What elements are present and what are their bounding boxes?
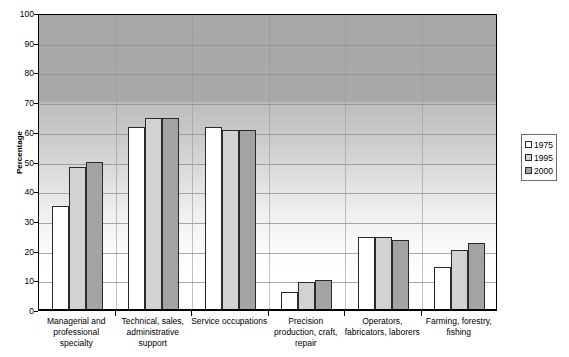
bar bbox=[222, 130, 239, 310]
x-axis-label-line: repair bbox=[262, 338, 351, 349]
category-separator bbox=[192, 15, 193, 310]
y-axis-tick-label: 50 bbox=[10, 159, 34, 167]
bar bbox=[451, 250, 468, 310]
y-axis-title: Percentage bbox=[15, 108, 24, 198]
y-axis-tick-label: 80 bbox=[10, 69, 34, 77]
dark-gray-swatch-icon bbox=[525, 167, 532, 174]
bar bbox=[52, 206, 69, 310]
x-axis-label-line: fishing bbox=[415, 327, 504, 338]
gridline bbox=[39, 104, 496, 105]
bar bbox=[468, 243, 485, 310]
x-axis-label-line: Technical, sales, bbox=[109, 316, 198, 327]
bar bbox=[145, 118, 162, 310]
bar bbox=[239, 130, 256, 310]
x-axis-label-line: Precision bbox=[262, 316, 351, 327]
bar bbox=[392, 240, 409, 310]
x-axis-label-line: support bbox=[109, 338, 198, 349]
y-axis-tick-label: 10 bbox=[10, 277, 34, 285]
x-axis-label-line: Farming, forestry, bbox=[415, 316, 504, 327]
x-axis-label: Service occupations bbox=[185, 316, 274, 327]
bar bbox=[128, 127, 145, 310]
bar bbox=[86, 162, 103, 311]
light-gray-swatch-icon bbox=[525, 154, 532, 161]
y-axis-tick-mark bbox=[34, 311, 38, 312]
y-axis-tick-label: 20 bbox=[10, 248, 34, 256]
category-separator bbox=[116, 15, 117, 310]
bar bbox=[69, 167, 86, 310]
plot-area bbox=[38, 14, 497, 311]
x-axis-label-line: fabricators, laborers bbox=[338, 327, 427, 338]
x-axis-label: Farming, forestry,fishing bbox=[415, 316, 504, 338]
gridline bbox=[39, 282, 496, 283]
legend-item[interactable]: 2000 bbox=[525, 164, 553, 177]
x-axis-label: Technical, sales,administrativesupport bbox=[109, 316, 198, 349]
gridline bbox=[39, 45, 496, 46]
y-axis-tick-label: 0 bbox=[10, 307, 34, 315]
bar bbox=[281, 292, 298, 310]
bar bbox=[375, 237, 392, 310]
x-axis-label-line: Operators, bbox=[338, 316, 427, 327]
gridline bbox=[39, 134, 496, 135]
gridline bbox=[39, 164, 496, 165]
gridline bbox=[39, 74, 496, 75]
x-axis-label-line: production, craft, bbox=[262, 327, 351, 338]
category-separator bbox=[345, 15, 346, 310]
bar-chart: Percentage 0102030405060708090100 Manage… bbox=[0, 0, 569, 357]
x-axis-label: Precisionproduction, craft,repair bbox=[262, 316, 351, 349]
x-axis-label-line: administrative bbox=[109, 327, 198, 338]
x-axis-line bbox=[39, 309, 496, 310]
y-axis-tick-label: 100 bbox=[10, 10, 34, 18]
x-axis-label: Managerial andprofessionalspecialty bbox=[32, 316, 121, 349]
gridline bbox=[39, 193, 496, 194]
bar bbox=[205, 127, 222, 310]
y-axis-tick-label: 90 bbox=[10, 40, 34, 48]
bar bbox=[358, 237, 375, 310]
y-axis-tick-label: 40 bbox=[10, 188, 34, 196]
gridline bbox=[39, 223, 496, 224]
bar bbox=[162, 118, 179, 310]
x-axis-label-line: specialty bbox=[32, 338, 121, 349]
bar bbox=[315, 280, 332, 310]
x-axis-label: Operators,fabricators, laborers bbox=[338, 316, 427, 338]
x-axis-label-line: Service occupations bbox=[185, 316, 274, 327]
legend-item[interactable]: 1995 bbox=[525, 151, 553, 164]
y-axis-tick-label: 30 bbox=[10, 218, 34, 226]
x-axis-label-line: Managerial and bbox=[32, 316, 121, 327]
legend-label: 1995 bbox=[534, 153, 553, 163]
legend-item[interactable]: 1975 bbox=[525, 138, 553, 151]
category-separator bbox=[422, 15, 423, 310]
category-separator bbox=[269, 15, 270, 310]
legend-label: 2000 bbox=[534, 166, 553, 176]
legend-label: 1975 bbox=[534, 140, 553, 150]
white-swatch-icon bbox=[525, 141, 532, 148]
legend[interactable]: 1975 1995 2000 bbox=[521, 134, 557, 181]
gridline bbox=[39, 253, 496, 254]
bar bbox=[434, 267, 451, 310]
x-axis-label-line: professional bbox=[32, 327, 121, 338]
y-axis-tick-label: 60 bbox=[10, 129, 34, 137]
bar bbox=[298, 282, 315, 310]
y-axis-tick-label: 70 bbox=[10, 99, 34, 107]
